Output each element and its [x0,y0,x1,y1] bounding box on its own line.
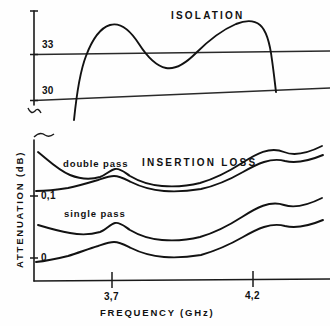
insertion-loss-ytick-label-0point1: 0,1 [41,190,56,201]
insertion-loss-panel-title: INSERTION LOSS [142,157,257,168]
isolation-gridline-33 [34,51,330,55]
isolation-curve [74,21,276,120]
y-axis-title: ATTENUATION (dB) [14,151,25,268]
annotation-double-pass: double pass [63,158,128,169]
annotation-single-pass: single pass [64,208,126,219]
figure-container: 33 30 ISOLATION [0,0,330,326]
figure-svg: 33 30 ISOLATION [0,0,330,326]
insertion-loss-panel: 0,1 0 3,7 4,2 double pass single pass IN… [14,133,330,318]
insertion-loss-ytick-label-0: 0 [41,252,47,263]
insertion-loss-xtick-label-3point7: 3,7 [104,291,119,302]
isolation-ytick-label-33: 33 [42,39,54,50]
insertion-loss-x-axis [34,279,330,281]
x-axis-title: FREQUENCY (GHz) [100,307,214,318]
isolation-panel: 33 30 ISOLATION [28,10,330,120]
isolation-axis-foot-squiggle [28,108,41,113]
isolation-panel-title: ISOLATION [171,10,245,21]
insertion-loss-xtick-label-4point2: 4,2 [245,290,260,301]
isolation-ytick-label-30: 30 [42,85,54,96]
insertion-loss-axis-head-squiggle [34,133,54,137]
insertion-loss-curve-single-pass-upper [38,198,322,240]
